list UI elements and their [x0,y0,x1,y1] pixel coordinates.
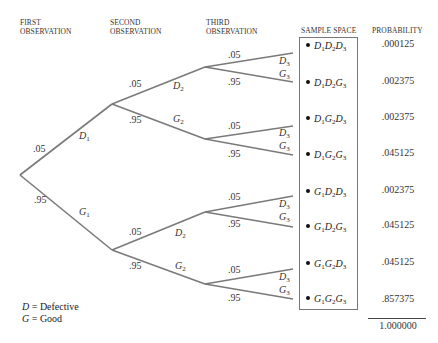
event-d1: D1 [79,130,90,143]
bullet-icon [306,189,310,193]
branch-g1-d2 [112,212,205,250]
branch-d1-d2 [112,67,205,104]
event-d1-d2: D2 [173,80,184,93]
event-level3: D3 [279,55,290,68]
event-level3: D3 [279,127,290,140]
event-level3: G3 [279,284,290,297]
event-g1: G1 [79,206,90,219]
event-d1-g2: G2 [173,113,184,126]
probability-value: .857375 [372,293,424,304]
prob-level3: .05 [228,49,241,60]
branch-d1 [20,104,112,175]
prob-level3: .95 [228,76,241,87]
prob-level3: .95 [228,292,241,303]
branch-g1-g2 [112,250,205,284]
prob-level3: .05 [228,264,241,275]
bullet-icon [306,116,310,120]
probability-value: .002375 [372,111,424,122]
prob-d1-d2: .05 [129,78,142,89]
probability-value: .045125 [372,147,424,158]
outcome-g1g2g3: G1G2G3 [306,293,346,306]
probability-total: 1.000000 [372,320,424,331]
legend-defective: D = Defective [22,301,79,312]
probability-value: .045125 [372,256,424,267]
prob-d1-g2: .95 [129,114,142,125]
outcome-d1d2g3: D1D2G3 [306,77,346,90]
outcome-g1d2d3: G1D2D3 [306,186,346,199]
bullet-icon [306,261,310,265]
legend-good: G = Good [22,313,62,324]
bullet-icon [306,224,310,228]
event-g1-d2: D2 [175,227,186,240]
bullet-icon [306,296,310,300]
branch-d1-g2 [112,104,205,139]
bullet-icon [306,43,310,47]
bullet-icon [306,152,310,156]
outcome-g1d2g3: G1D2G3 [306,221,346,234]
prob-level3: .95 [228,218,241,229]
prob-g1-d2: .05 [129,226,142,237]
probability-value: .002375 [372,75,424,86]
prob-g1-g2: .95 [129,260,142,271]
event-level3: G3 [279,140,290,153]
outcome-d1g2d3: D1G2D3 [306,113,346,126]
probability-value: .000125 [372,38,424,49]
branch-g1 [20,175,112,250]
outcome-d1g2g3: D1G2G3 [306,149,346,162]
prob-level3: .95 [228,148,241,159]
probability-value: .045125 [372,219,424,230]
prob-g1: .95 [34,194,47,205]
probability-value: .002375 [372,184,424,195]
prob-level3: .05 [228,120,241,131]
event-level3: D3 [279,198,290,211]
sum-rule [368,318,426,319]
event-level3: G3 [279,211,290,224]
outcome-g1g2d3: G1G2D3 [306,258,346,271]
prob-d1: .05 [33,143,46,154]
bullet-icon [306,80,310,84]
event-level3: D3 [279,271,290,284]
tree-branches [0,0,438,343]
outcome-d1d2d3: D1D2D3 [306,40,346,53]
event-g1-g2: G2 [175,260,186,273]
prob-level3: .05 [228,191,241,202]
event-level3: G3 [279,68,290,81]
